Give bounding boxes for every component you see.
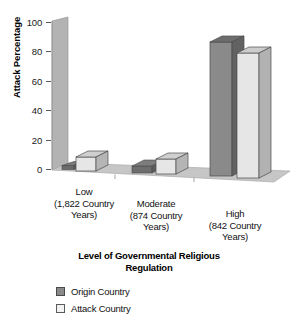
- category-detail1-moderate: (874 Country: [117, 210, 195, 222]
- x-axis-title: Level of Governmental Religious Regulati…: [42, 250, 256, 274]
- category-name-low: Low: [42, 186, 126, 198]
- category-detail2-low: Years): [42, 209, 126, 221]
- plot-side-wall: [52, 17, 68, 170]
- legend-item-origin-country: Origin Country: [56, 283, 131, 300]
- category-name-high: High: [196, 208, 274, 220]
- bar-attack-high: [237, 47, 271, 178]
- category-detail1-high: (842 Country: [196, 220, 274, 232]
- bars-layer: [0, 0, 298, 200]
- x-axis-title-line1: Level of Governmental Religious: [42, 250, 256, 262]
- legend-swatch-attack-country: [56, 304, 65, 313]
- category-detail1-low: (1,822 Country: [42, 198, 126, 210]
- category-label-moderate: Moderate (874 Country Years): [117, 198, 195, 233]
- plot-area: 100 80 60 40 20 0: [0, 0, 298, 200]
- legend-label-attack-country: Attack Country: [71, 303, 131, 314]
- category-detail2-high: Years): [196, 231, 274, 243]
- legend-label-origin-country: Origin Country: [71, 286, 129, 297]
- chart-legend: Origin Country Attack Country: [56, 283, 131, 317]
- chart-figure: Attack Percentage 100 80 60 40 20 0: [0, 0, 298, 324]
- category-name-moderate: Moderate: [117, 198, 195, 210]
- category-label-high: High (842 Country Years): [196, 208, 274, 243]
- category-label-low: Low (1,822 Country Years): [42, 186, 126, 221]
- legend-item-attack-country: Attack Country: [56, 300, 131, 317]
- x-axis-title-line2: Regulation: [42, 262, 256, 274]
- category-detail2-moderate: Years): [117, 221, 195, 233]
- legend-swatch-origin-country: [56, 287, 65, 296]
